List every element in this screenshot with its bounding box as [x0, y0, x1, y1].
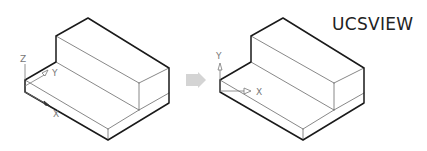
x-axis-label-before: X — [53, 109, 59, 119]
z-axis-label: Z — [20, 54, 26, 64]
y-axis-label-before: Y — [51, 68, 58, 78]
transition-arrow-icon — [186, 72, 206, 88]
block-after — [220, 18, 364, 140]
ucsview-diagram: Z Y X Y X — [0, 0, 427, 151]
block-before — [25, 18, 169, 140]
x-axis-label-after: X — [256, 87, 262, 97]
y-axis-label-after: Y — [215, 51, 222, 61]
